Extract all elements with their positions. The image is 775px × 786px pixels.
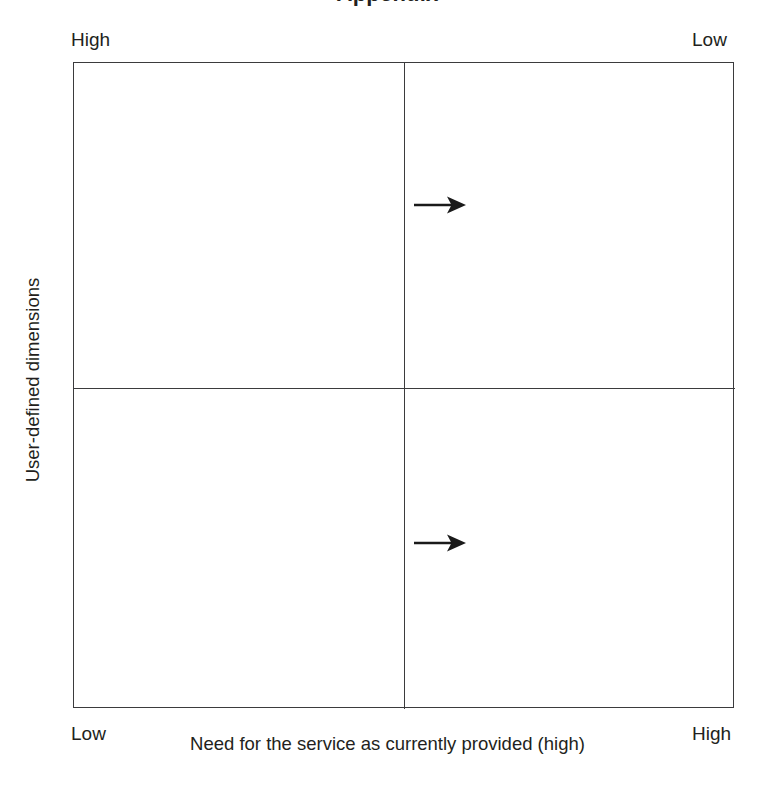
horizontal-divider-line <box>74 388 735 389</box>
page-title-fragment: Appendix <box>0 0 775 7</box>
quadrant-bottom-left <box>74 390 404 713</box>
y-axis-title: User-defined dimensions <box>20 250 46 510</box>
right-arrow-icon-upper <box>414 194 466 216</box>
x-axis-title: Need for the service as currently provid… <box>0 732 775 756</box>
top-axis-low-label: Low <box>692 28 727 52</box>
right-arrow-icon-lower <box>414 532 466 554</box>
y-axis-title-container: User-defined dimensions <box>20 250 46 510</box>
quadrant-top-left <box>74 63 404 386</box>
quadrant-top-right <box>405 63 735 386</box>
quadrant-matrix <box>73 62 734 708</box>
vertical-divider-line <box>404 63 405 709</box>
y-axis-high-label: High <box>71 28 110 52</box>
